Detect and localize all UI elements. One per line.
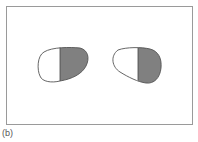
lenses-diagram [0, 0, 198, 142]
left-lens [38, 40, 100, 90]
right-lens [113, 40, 168, 90]
figure-caption: (b) [2, 128, 13, 138]
